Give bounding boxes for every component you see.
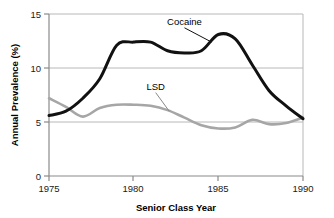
lsd-series-label: LSD — [146, 81, 165, 92]
y-tick-label-10: 10 — [30, 63, 41, 74]
x-tick-label-1975: 1975 — [38, 183, 59, 194]
drug-prevalence-line-chart: 15 10 5 0 1975 1980 1985 1990 Annual Pre… — [0, 0, 334, 218]
chart-container: 15 10 5 0 1975 1980 1985 1990 Annual Pre… — [0, 0, 334, 218]
y-tick-label-15: 15 — [30, 9, 41, 20]
y-tick-label-5: 5 — [36, 117, 41, 128]
y-tick-label-0: 0 — [36, 171, 41, 182]
x-axis-title: Senior Class Year — [136, 202, 216, 213]
y-axis-title: Annual Prevalence (%) — [9, 44, 20, 146]
cocaine-series-label: Cocaine — [167, 16, 202, 27]
x-tick-label-1990: 1990 — [292, 183, 313, 194]
x-tick-label-1985: 1985 — [207, 183, 228, 194]
x-tick-label-1980: 1980 — [122, 183, 143, 194]
